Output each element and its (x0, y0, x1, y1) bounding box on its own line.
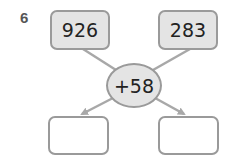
operation-oval: +58 (106, 63, 162, 108)
answer-box-left[interactable] (48, 116, 109, 155)
question-number: 6 (20, 9, 28, 26)
arrow-left-output (82, 98, 113, 114)
arrow-right-output (155, 98, 184, 114)
line-right-input (153, 49, 190, 70)
line-left-input (83, 49, 116, 70)
input-box-right: 283 (158, 10, 218, 50)
input-box-left: 926 (50, 10, 110, 50)
answer-box-right[interactable] (158, 116, 219, 155)
